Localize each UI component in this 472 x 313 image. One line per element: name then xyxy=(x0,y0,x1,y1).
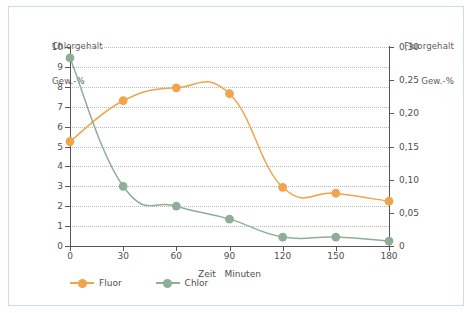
data-point xyxy=(278,183,287,192)
x-axis-label: 30 xyxy=(103,251,143,261)
legend-marker-icon xyxy=(156,277,180,288)
series-fluor xyxy=(66,82,394,206)
y-axis-left-label: 10 xyxy=(23,42,63,52)
legend-item-chlor[interactable]: Chlor xyxy=(156,277,209,288)
data-point xyxy=(172,83,181,92)
x-axis-label: 0 xyxy=(50,251,90,261)
y-axis-right-label: 0 xyxy=(399,241,439,251)
y-axis-left-label: 4 xyxy=(23,161,63,171)
data-point xyxy=(225,89,234,98)
data-point xyxy=(119,96,128,105)
y-axis-right-label: 0,20 xyxy=(399,108,439,118)
data-point xyxy=(225,215,234,224)
chart-figure: Chlorgehalt Gew.-% Fluorgehalt Gew.-% 01… xyxy=(0,0,472,313)
y-axis-left-label: 3 xyxy=(23,181,63,191)
y-axis-right-label: 0,10 xyxy=(399,175,439,185)
y-axis-right-label: 0,25 xyxy=(399,75,439,85)
legend-dot xyxy=(78,279,87,288)
data-point xyxy=(119,182,128,191)
legend-dot xyxy=(163,279,172,288)
y-axis-right-label: 0,15 xyxy=(399,142,439,152)
y-axis-left-label: 6 xyxy=(23,122,63,132)
x-axis-label: 120 xyxy=(263,251,303,261)
x-axis-label: 180 xyxy=(369,251,409,261)
x-axis-line xyxy=(69,246,390,247)
y-axis-left-label: 5 xyxy=(23,142,63,152)
y-axis-left-label: 2 xyxy=(23,201,63,211)
plot-wrapper: Chlorgehalt Gew.-% Fluorgehalt Gew.-% 01… xyxy=(0,0,472,313)
data-point xyxy=(172,202,181,211)
chart-legend: FluorChlor xyxy=(70,277,208,288)
x-axis-label: 60 xyxy=(156,251,196,261)
y-axis-left-label: 9 xyxy=(23,62,63,72)
x-axis-label: 150 xyxy=(316,251,356,261)
y-axis-right-label: 0,05 xyxy=(399,208,439,218)
series-line xyxy=(70,82,389,201)
y-axis-right-line xyxy=(389,46,390,247)
y-axis-left-label: 8 xyxy=(23,82,63,92)
legend-label: Chlor xyxy=(185,278,209,288)
data-point xyxy=(385,197,394,206)
data-point xyxy=(66,137,75,146)
legend-item-fluor[interactable]: Fluor xyxy=(70,277,122,288)
data-point xyxy=(66,54,75,63)
data-point xyxy=(385,237,394,246)
y-axis-left-label: 0 xyxy=(23,241,63,251)
series-chlor xyxy=(66,54,394,246)
y-axis-left-label: 7 xyxy=(23,102,63,112)
right-axis-title: Fluorgehalt Gew.-% xyxy=(404,18,454,110)
x-axis-label: 90 xyxy=(210,251,250,261)
y-axis-right-label: 0,30 xyxy=(399,42,439,52)
data-point xyxy=(278,233,287,242)
series-layer xyxy=(70,47,389,246)
y-axis-left-label: 1 xyxy=(23,221,63,231)
series-line xyxy=(70,58,389,241)
data-point xyxy=(331,189,340,198)
plot-area: 012345678910 00,050,100,150,200,250,30 0… xyxy=(70,47,389,246)
legend-label: Fluor xyxy=(99,278,122,288)
data-point xyxy=(331,233,340,242)
legend-marker-icon xyxy=(70,277,94,288)
